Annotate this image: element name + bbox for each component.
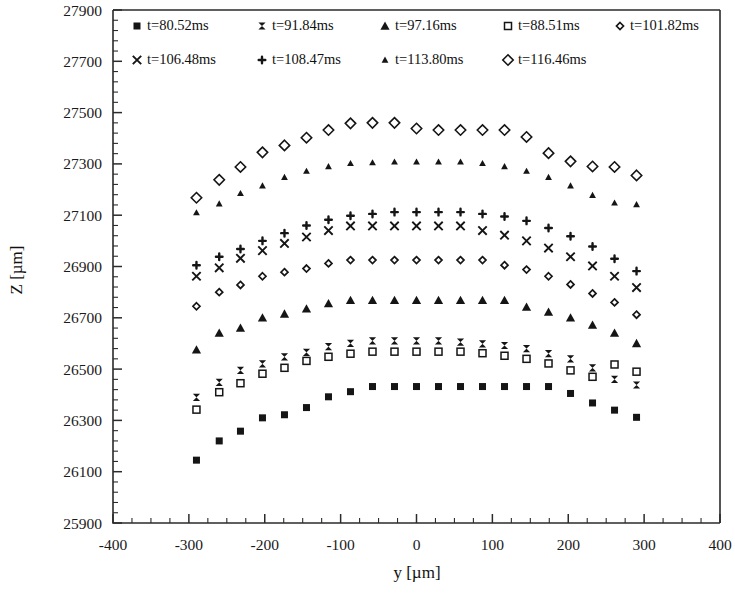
y-tick-label: 25900 <box>63 515 102 532</box>
legend-label: t=101.82ms <box>630 17 699 33</box>
plot-background <box>0 0 735 595</box>
legend-marker-icon <box>134 23 141 30</box>
legend-label: t=97.16ms <box>395 17 457 33</box>
legend-label: t=108.47ms <box>272 51 341 67</box>
data-point <box>501 352 508 359</box>
data-point <box>193 457 200 464</box>
data-point <box>567 367 574 374</box>
data-point <box>347 388 354 395</box>
x-tick-label: -100 <box>326 536 355 553</box>
data-point <box>611 407 618 414</box>
data-point <box>369 383 376 390</box>
x-tick-label: -200 <box>251 536 280 553</box>
x-tick-label: 0 <box>413 536 421 553</box>
data-point <box>325 393 332 400</box>
data-point <box>303 404 310 411</box>
data-point <box>193 406 200 413</box>
data-point <box>523 383 530 390</box>
data-point <box>479 350 486 357</box>
data-point <box>391 383 398 390</box>
y-tick-label: 26300 <box>63 412 102 429</box>
legend-label: t=106.48ms <box>147 51 216 67</box>
x-axis-title: y [µm] <box>393 563 440 582</box>
y-tick-label: 26700 <box>63 309 102 326</box>
y-tick-label: 27700 <box>63 53 102 70</box>
data-point <box>259 370 266 377</box>
y-axis-title: Z [µm] <box>7 246 26 295</box>
data-point <box>281 364 288 371</box>
data-point <box>567 390 574 397</box>
data-point <box>237 428 244 435</box>
data-point <box>413 348 420 355</box>
data-point <box>633 368 640 375</box>
data-point <box>589 373 596 380</box>
data-point <box>391 348 398 355</box>
y-tick-label: 27100 <box>63 207 102 224</box>
x-tick-label: -300 <box>175 536 204 553</box>
legend-label: t=116.46ms <box>518 51 587 67</box>
data-point <box>325 353 332 360</box>
data-point <box>633 414 640 421</box>
y-tick-label: 27300 <box>63 155 102 172</box>
data-point <box>545 360 552 367</box>
y-tick-label: 27500 <box>63 104 102 121</box>
data-point <box>589 399 596 406</box>
y-tick-label: 27900 <box>63 2 102 19</box>
data-point <box>457 383 464 390</box>
data-point <box>479 383 486 390</box>
x-tick-label: -400 <box>99 536 128 553</box>
legend-label: t=80.52ms <box>147 17 209 33</box>
data-point <box>237 380 244 387</box>
data-point <box>523 355 530 362</box>
x-tick-labels: -400-300-200-1000100200300400 <box>99 536 732 553</box>
x-tick-label: 400 <box>708 536 732 553</box>
data-point <box>303 357 310 364</box>
y-tick-label: 26500 <box>63 361 102 378</box>
data-point <box>347 350 354 357</box>
data-point <box>501 383 508 390</box>
x-tick-label: 100 <box>481 536 505 553</box>
legend-label: t=113.80ms <box>395 51 464 67</box>
data-point <box>413 383 420 390</box>
legend-marker-icon <box>505 23 512 30</box>
legend-label: t=91.84ms <box>272 17 334 33</box>
data-point <box>216 389 223 396</box>
y-tick-label: 26900 <box>63 258 102 275</box>
y-tick-label: 26100 <box>63 463 102 480</box>
data-point <box>281 411 288 418</box>
chart-figure: 2590026100263002650026700269002710027300… <box>0 0 735 595</box>
data-point <box>545 383 552 390</box>
data-point <box>216 437 223 444</box>
data-point <box>369 348 376 355</box>
x-tick-label: 200 <box>557 536 581 553</box>
data-point <box>259 414 266 421</box>
scatter-plot-svg: 2590026100263002650026700269002710027300… <box>0 0 735 595</box>
data-point <box>457 348 464 355</box>
legend-label: t=88.51ms <box>518 17 580 33</box>
data-point <box>435 348 442 355</box>
x-tick-label: 300 <box>633 536 657 553</box>
data-point <box>435 383 442 390</box>
legend-item: t=108.47ms <box>259 51 342 67</box>
data-point <box>611 361 618 368</box>
